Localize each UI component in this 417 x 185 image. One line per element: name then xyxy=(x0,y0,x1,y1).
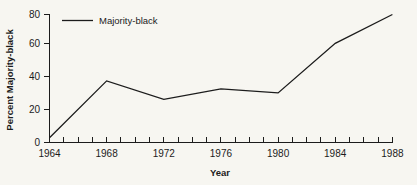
y-tick-label-80: 80 xyxy=(29,9,41,20)
y-tick-label-40: 40 xyxy=(29,71,41,82)
x-tick-label-1972: 1972 xyxy=(153,148,176,159)
x-tick-label-1980: 1980 xyxy=(267,148,290,159)
y-tick-label-60: 60 xyxy=(29,38,41,49)
x-tick-label-1984: 1984 xyxy=(324,148,347,159)
chart-legend: Majority-black xyxy=(62,15,158,26)
series-line-majority-black xyxy=(50,15,393,138)
x-tick-label-1988: 1988 xyxy=(381,148,404,159)
x-axis-ticks xyxy=(50,137,393,143)
y-axis-ticks xyxy=(44,15,50,143)
y-tick-label-0: 0 xyxy=(34,137,40,148)
chart-container: Percent Majority-black 0 20 40 60 80 xyxy=(0,0,417,185)
line-chart: Percent Majority-black 0 20 40 60 80 xyxy=(0,0,417,185)
x-tick-label-1968: 1968 xyxy=(95,148,118,159)
x-tick-label-1976: 1976 xyxy=(210,148,233,159)
legend-label-majority-black: Majority-black xyxy=(99,15,158,26)
x-tick-label-1964: 1964 xyxy=(38,148,61,159)
x-axis-title: Year xyxy=(210,167,230,178)
y-axis-title: Percent Majority-black xyxy=(4,29,15,131)
y-tick-label-20: 20 xyxy=(29,104,41,115)
